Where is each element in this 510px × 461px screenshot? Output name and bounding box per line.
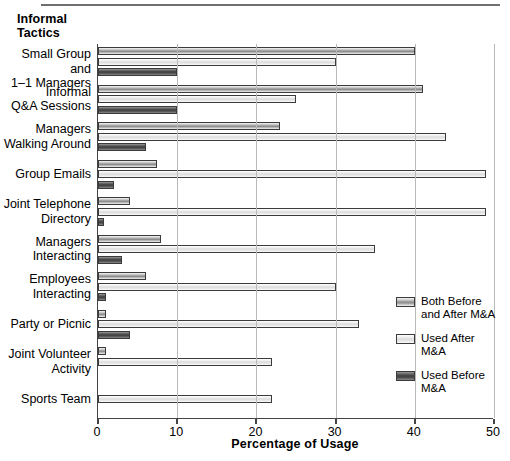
category-label: EmployeesInteracting	[0, 272, 97, 301]
category-label-line1: Managers	[0, 235, 91, 250]
legend-swatch-before	[396, 371, 415, 381]
bar	[98, 272, 146, 280]
bar	[98, 58, 336, 66]
gridline-30	[336, 44, 337, 418]
bar-group	[98, 232, 493, 270]
bar	[98, 256, 122, 264]
bar	[98, 358, 272, 366]
legend-item[interactable]: Used BeforeM&A	[396, 369, 508, 395]
bar-group	[98, 194, 493, 232]
category-label-line1: Group Emails	[0, 167, 91, 182]
gridline-10	[177, 44, 178, 418]
bar	[98, 235, 161, 243]
bar	[98, 218, 104, 226]
top-rule	[41, 4, 500, 6]
category-label: Sports Team	[0, 392, 97, 407]
category-label: Party or Picnic	[0, 317, 97, 332]
x-tick-mark	[255, 419, 257, 424]
bar-group	[98, 44, 493, 82]
legend-label-line2: and After M&A	[421, 308, 495, 321]
x-tick-mark	[335, 419, 337, 424]
category-label: Group Emails	[0, 167, 97, 182]
category-label-line2: Activity	[0, 362, 91, 377]
bar	[98, 95, 296, 103]
bar	[98, 170, 486, 178]
x-tick-mark	[176, 419, 178, 424]
category-label-line2: Interacting	[0, 249, 91, 264]
bar	[98, 208, 486, 216]
bar	[98, 181, 114, 189]
x-axis-title: Percentage of Usage	[97, 437, 493, 451]
category-label-line2: Directory	[0, 212, 91, 227]
category-label-line1: Managers	[0, 122, 91, 137]
x-tick-mark	[97, 419, 99, 424]
category-label-line2: Interacting	[0, 287, 91, 302]
bar	[98, 197, 130, 205]
bar	[98, 395, 272, 403]
bar	[98, 122, 280, 130]
legend-label-line1: Both Before	[421, 295, 495, 308]
category-label-line1: Employees	[0, 272, 91, 287]
legend-item[interactable]: Used AfterM&A	[396, 332, 508, 358]
category-label: ManagersInteracting	[0, 235, 97, 264]
category-label-line1: Small Group and	[0, 47, 91, 76]
category-label-line1: Joint Telephone	[0, 197, 91, 212]
bar-group	[98, 82, 493, 120]
bar	[98, 160, 157, 168]
category-label-line2: Walking Around	[0, 137, 91, 152]
legend-item[interactable]: Both Beforeand After M&A	[396, 295, 508, 321]
x-tick-mark	[493, 419, 495, 424]
chart-legend: Both Beforeand After M&AUsed AfterM&AUse…	[396, 295, 508, 406]
legend-label: Used AfterM&A	[421, 332, 475, 358]
bar	[98, 85, 423, 93]
category-label-line1: Sports Team	[0, 392, 91, 407]
category-label: ManagersWalking Around	[0, 122, 97, 151]
bar	[98, 331, 130, 339]
bar	[98, 245, 375, 253]
bar	[98, 347, 106, 355]
legend-label-line2: M&A	[421, 382, 485, 395]
category-label: Joint VolunteerActivity	[0, 347, 97, 376]
legend-label: Both Beforeand After M&A	[421, 295, 495, 321]
legend-label-line1: Used After	[421, 332, 475, 345]
bar	[98, 320, 359, 328]
bar	[98, 106, 177, 114]
y-axis-header-line2: Tactics	[17, 26, 97, 40]
legend-label-line2: M&A	[421, 345, 475, 358]
bar	[98, 68, 177, 76]
legend-label-line1: Used Before	[421, 369, 485, 382]
legend-swatch-after	[396, 334, 415, 344]
category-label-line1: Joint Volunteer	[0, 347, 91, 362]
legend-swatch-both	[396, 297, 415, 307]
category-label: InformalQ&A Sessions	[0, 85, 97, 114]
bar	[98, 283, 336, 291]
gridline-20	[256, 44, 257, 418]
bar	[98, 143, 146, 151]
y-axis-header-line1: Informal	[17, 12, 97, 26]
x-tick-mark	[414, 419, 416, 424]
bar	[98, 310, 106, 318]
bar-group	[98, 157, 493, 195]
category-label-line1: Party or Picnic	[0, 317, 91, 332]
bar-group	[98, 119, 493, 157]
y-axis-header: Informal Tactics	[17, 12, 97, 40]
x-axis-ticks: 01020304050	[97, 419, 493, 439]
bar	[98, 293, 106, 301]
bar	[98, 133, 446, 141]
category-label-line2: Q&A Sessions	[0, 99, 91, 114]
category-label-line1: Informal	[0, 85, 91, 100]
category-label-column: Small Group and1–1 ManagersInformalQ&A S…	[0, 44, 97, 419]
legend-label: Used BeforeM&A	[421, 369, 485, 395]
category-label: Joint TelephoneDirectory	[0, 197, 97, 226]
